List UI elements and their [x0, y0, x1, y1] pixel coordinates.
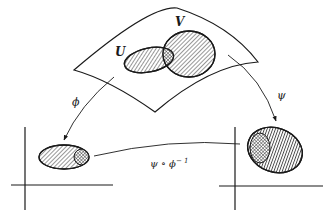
label-v: V: [175, 15, 186, 29]
label-transition-exponent: − 1: [176, 157, 189, 165]
label-transition-base: ψ ∘ ϕ: [150, 158, 176, 169]
label-phi: ϕ: [72, 96, 80, 109]
label-transition: ψ ∘ ϕ− 1: [150, 157, 188, 169]
diagram-canvas: U V ϕ ψ ψ ∘ ϕ−: [0, 0, 335, 222]
transition-map-curve: [94, 143, 240, 157]
label-psi: ψ: [277, 89, 286, 102]
label-u: U: [115, 45, 127, 59]
psi-image: [241, 120, 309, 180]
phi-image: [39, 145, 90, 169]
arrow-psi: [228, 55, 276, 121]
